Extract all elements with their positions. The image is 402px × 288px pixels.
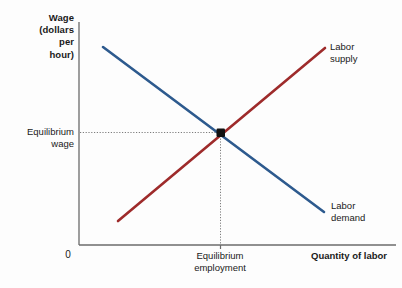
origin-label: 0 xyxy=(62,249,74,261)
labor-demand-curve[interactable] xyxy=(103,47,324,212)
labor-supply-curve-label: Labor supply xyxy=(330,41,396,64)
equilibrium-employment-label: Equilibrium employment xyxy=(170,250,270,273)
equilibrium-point-marker[interactable] xyxy=(217,129,226,138)
y-axis-title: Wage (dollars per hour) xyxy=(16,12,74,61)
x-axis-title: Quantity of labor xyxy=(311,250,401,262)
labor-demand-curve-label: Labor demand xyxy=(331,200,397,223)
labor-market-diagram: Wage (dollars per hour) Equilibrium wage… xyxy=(0,0,402,288)
equilibrium-wage-label: Equilibrium wage xyxy=(8,126,74,149)
